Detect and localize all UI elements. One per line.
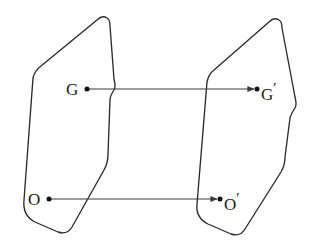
right-region-outline	[197, 19, 296, 235]
point-label-g-text: G	[66, 80, 78, 99]
point-g-dot	[85, 87, 90, 92]
point-oprime-dot	[218, 197, 223, 202]
point-label-o-prime-text: O	[224, 195, 236, 214]
point-label-g-prime: G′	[261, 81, 277, 103]
mapping-diagram: G O G′ O′	[0, 0, 312, 244]
point-o-dot	[47, 197, 52, 202]
prime-mark-g: ′	[273, 80, 276, 96]
point-gprime-dot	[255, 87, 260, 92]
prime-mark-o: ′	[236, 190, 239, 206]
point-label-g: G	[66, 81, 78, 98]
point-label-o: O	[28, 191, 40, 208]
point-label-g-prime-text: G	[261, 85, 273, 104]
point-label-o-text: O	[28, 190, 40, 209]
point-label-o-prime: O′	[224, 191, 240, 213]
diagram-canvas	[0, 0, 312, 244]
